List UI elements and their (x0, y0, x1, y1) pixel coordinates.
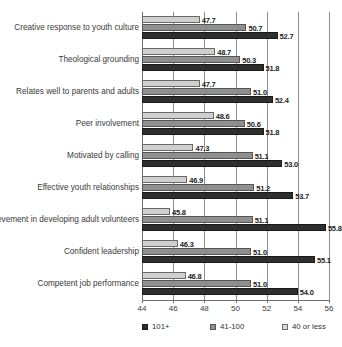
bar-value-label: 46.8 (188, 273, 202, 280)
bar (142, 208, 170, 215)
category-label: Effective youth relationships (0, 183, 139, 192)
bar (142, 288, 298, 295)
bar (142, 56, 240, 63)
legend-item[interactable]: 101+ (142, 322, 170, 331)
legend-swatch-icon (210, 324, 216, 330)
legend-label: 40 or less (292, 322, 326, 331)
legend-label: 41-100 (220, 322, 244, 331)
x-tick-label: 54 (293, 304, 302, 313)
bar (142, 64, 264, 71)
bar (142, 120, 245, 127)
x-tick-label: 50 (231, 304, 240, 313)
bar-value-label: 51.0 (253, 89, 267, 96)
legend-label: 101+ (152, 322, 170, 331)
category-label: Achievement in developing adult voluntee… (0, 215, 139, 224)
x-tick-label: 44 (138, 304, 147, 313)
bar-group: 48.650.651.8 (142, 108, 329, 140)
bar (142, 128, 264, 135)
bar (142, 280, 251, 287)
bar (142, 112, 214, 119)
bar-value-label: 48.6 (216, 113, 230, 120)
bar-group: 46.951.253.7 (142, 172, 329, 204)
bar (142, 48, 215, 55)
bar-group: 45.851.155.8 (142, 204, 329, 236)
bar (142, 248, 251, 255)
category-label: Competent job performance (0, 279, 139, 288)
x-tick (173, 300, 174, 303)
legend-swatch-icon (282, 324, 288, 330)
bar-value-label: 47.3 (195, 145, 209, 152)
bar-value-label: 51.1 (255, 153, 269, 160)
category-label: Creative response to youth culture (0, 23, 139, 32)
x-tick (142, 300, 143, 303)
bar (142, 16, 200, 23)
bar-value-label: 52.7 (280, 33, 294, 40)
x-tick-label: 46 (169, 304, 178, 313)
bar-value-label: 53.7 (295, 193, 309, 200)
x-tick-label: 48 (200, 304, 209, 313)
bar-value-label: 47.7 (202, 81, 216, 88)
bar (142, 272, 186, 279)
bar-value-label: 55.1 (317, 257, 331, 264)
legend-swatch-icon (142, 324, 148, 330)
bar-group: 46.851.054.0 (142, 268, 329, 300)
plot-area: 47.750.752.748.750.351.847.751.052.448.6… (142, 12, 329, 300)
x-tick (329, 300, 330, 303)
bar-value-label: 51.1 (255, 217, 269, 224)
bar-value-label: 48.7 (217, 49, 231, 56)
legend-item[interactable]: 40 or less (282, 322, 326, 331)
bar-value-label: 51.0 (253, 281, 267, 288)
bar-group: 48.750.351.8 (142, 44, 329, 76)
category-label: Motivated by calling (0, 151, 139, 160)
category-label: Peer involvement (0, 119, 139, 128)
x-tick (204, 300, 205, 303)
bar-value-label: 53.0 (284, 161, 298, 168)
legend-item[interactable]: 41-100 (210, 322, 244, 331)
bar-value-label: 51.8 (266, 129, 280, 136)
bar (142, 224, 326, 231)
bar (142, 152, 253, 159)
bar (142, 256, 315, 263)
x-tick (236, 300, 237, 303)
category-label: Theological grounding (0, 55, 139, 64)
category-label: Relates well to parents and adults (0, 87, 139, 96)
chart-legend: 101+41-10040 or less (142, 322, 335, 336)
bar-value-label: 50.6 (247, 121, 261, 128)
bar (142, 192, 293, 199)
bar (142, 216, 253, 223)
bar-value-label: 46.3 (180, 241, 194, 248)
bar (142, 160, 282, 167)
bar-value-label: 51.0 (253, 249, 267, 256)
bar (142, 144, 193, 151)
bar-value-label: 55.8 (328, 225, 342, 232)
bar (142, 80, 200, 87)
bar (142, 184, 254, 191)
bar (142, 240, 178, 247)
x-tick (267, 300, 268, 303)
bar-value-label: 52.4 (275, 97, 289, 104)
bar-value-label: 45.8 (172, 209, 186, 216)
x-tick (298, 300, 299, 303)
bar (142, 88, 251, 95)
bar (142, 32, 278, 39)
bar-value-label: 51.2 (256, 185, 270, 192)
bar (142, 176, 187, 183)
bar-value-label: 51.8 (266, 65, 280, 72)
bar-group: 47.351.153.0 (142, 140, 329, 172)
bar (142, 96, 273, 103)
bar-value-label: 50.7 (248, 25, 262, 32)
bar-value-label: 46.9 (189, 177, 203, 184)
x-tick-label: 56 (325, 304, 334, 313)
bar-value-label: 47.7 (202, 17, 216, 24)
bar-group: 47.750.752.7 (142, 12, 329, 44)
bar (142, 24, 246, 31)
bar-group: 46.351.055.1 (142, 236, 329, 268)
bar-value-label: 54.0 (300, 289, 314, 296)
category-label: Confident leadership (0, 247, 139, 256)
bar-group: 47.751.052.4 (142, 76, 329, 108)
bar-value-label: 50.3 (242, 57, 256, 64)
x-tick-label: 52 (262, 304, 271, 313)
